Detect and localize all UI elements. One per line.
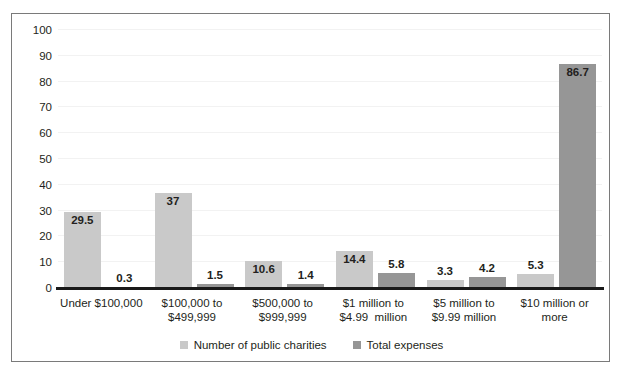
legend-swatch-icon <box>180 341 188 349</box>
x-axis-category-label: $100,000 to$499,999 <box>147 296 238 324</box>
bar-charities[interactable]: 37 <box>155 193 192 288</box>
bar-charities[interactable]: 14.4 <box>336 251 373 288</box>
bar-value-label: 4.2 <box>479 262 495 274</box>
y-axis-tick-label: 10 <box>12 256 52 268</box>
gridline <box>58 29 602 30</box>
x-axis-category-label: $1 million to$4.99 million <box>328 296 419 324</box>
gridline <box>58 55 602 56</box>
gridline <box>58 261 602 262</box>
y-axis-tick-label: 90 <box>12 50 52 62</box>
bar-expenses[interactable]: 86.7 <box>559 64 596 288</box>
bar-value-label: 5.3 <box>528 259 544 271</box>
bar-value-label: 14.4 <box>343 253 365 265</box>
chart-frame: 0102030405060708090100 29.50.3371.510.61… <box>11 13 610 362</box>
x-axis-label-line: $100,000 to <box>147 296 238 310</box>
bar-value-label: 1.4 <box>298 269 314 281</box>
y-axis-tick-label: 0 <box>12 282 52 294</box>
y-axis-tick-label: 80 <box>12 76 52 88</box>
bar-charities[interactable]: 10.6 <box>245 261 282 288</box>
bar-charities[interactable]: 5.3 <box>517 274 554 288</box>
bar-value-label: 5.8 <box>388 258 404 270</box>
plot-area: 29.50.3371.510.61.414.45.83.34.25.386.7 <box>58 30 602 288</box>
x-axis-baseline <box>56 287 604 290</box>
bar-expenses[interactable]: 5.8 <box>378 273 415 288</box>
x-axis-category-labels: Under $100,000$100,000 to$499,999$500,00… <box>56 296 604 336</box>
x-axis-label-line: more <box>509 310 600 324</box>
x-axis-category-label: $5 million to$9.99 million <box>419 296 510 324</box>
gridline <box>58 210 602 211</box>
x-axis-label-line: $500,000 to <box>237 296 328 310</box>
y-axis-tick-label: 70 <box>12 101 52 113</box>
y-axis-tick-label: 20 <box>12 230 52 242</box>
legend-item-charities[interactable]: Number of public charities <box>180 339 327 351</box>
legend-label: Total expenses <box>367 339 444 351</box>
y-axis-tick-label: 40 <box>12 179 52 191</box>
legend-item-expenses[interactable]: Total expenses <box>353 339 444 351</box>
legend-swatch-icon <box>353 341 361 349</box>
legend-label: Number of public charities <box>194 339 327 351</box>
bar-value-label: 3.3 <box>437 265 453 277</box>
bar-value-label: 29.5 <box>71 214 93 226</box>
gridline <box>58 106 602 107</box>
y-axis-tick-label: 60 <box>12 127 52 139</box>
bar-value-label: 10.6 <box>252 263 274 275</box>
bar-value-label: 37 <box>167 195 180 207</box>
bar-value-label: 86.7 <box>566 66 588 78</box>
x-axis-label-line: $1 million to <box>328 296 419 310</box>
x-axis-label-line: $5 million to <box>419 296 510 310</box>
y-axis: 0102030405060708090100 <box>12 30 52 288</box>
x-axis-label-line: $499,999 <box>147 310 238 324</box>
chart-legend: Number of public charitiesTotal expenses <box>12 339 611 351</box>
gridline <box>58 235 602 236</box>
x-axis-label-line: $999,999 <box>237 310 328 324</box>
bar-value-label: 1.5 <box>207 269 223 281</box>
x-axis-category-label: $500,000 to$999,999 <box>237 296 328 324</box>
gridline <box>58 184 602 185</box>
x-axis-category-label: Under $100,000 <box>56 296 147 310</box>
bar-charities[interactable]: 29.5 <box>64 212 101 288</box>
x-axis-category-label: $10 million ormore <box>509 296 600 324</box>
gridline <box>58 158 602 159</box>
y-axis-tick-label: 100 <box>12 24 52 36</box>
gridline <box>58 132 602 133</box>
bar-value-label: 0.3 <box>116 272 132 284</box>
x-axis-label-line: $4.99 million <box>328 310 419 324</box>
y-axis-tick-label: 50 <box>12 153 52 165</box>
x-axis-label-line: $9.99 million <box>419 310 510 324</box>
x-axis-label-line: $10 million or <box>509 296 600 310</box>
y-axis-tick-label: 30 <box>12 205 52 217</box>
gridline <box>58 81 602 82</box>
x-axis-label-line: Under $100,000 <box>56 296 147 310</box>
